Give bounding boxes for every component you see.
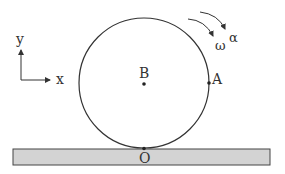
x-axis-label: x	[56, 71, 64, 87]
point-b-label: B	[139, 65, 149, 81]
point-a-label: A	[211, 71, 223, 87]
point-b-dot	[142, 82, 146, 86]
y-axis-label: y	[15, 31, 24, 47]
alpha-label: α	[229, 30, 238, 45]
point-a-dot	[207, 81, 211, 85]
omega-label: ω	[215, 38, 226, 53]
angular-velocity-arrow-icon	[188, 19, 213, 36]
angular-acceleration-arrow-icon	[200, 12, 225, 29]
point-o-label: O	[139, 150, 150, 166]
rolling-disk-diagram: B A O y x ω α	[0, 0, 285, 174]
coordinate-axes	[21, 50, 50, 80]
